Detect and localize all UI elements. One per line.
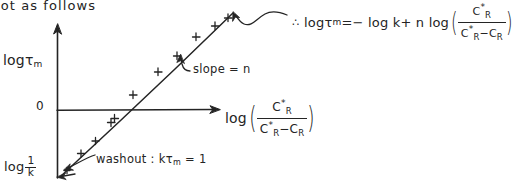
eq-tau-sub: m [332, 17, 341, 27]
eq-coefficient: n [416, 15, 424, 30]
washout-tau-sub: m [173, 158, 181, 167]
eq-plus: + [400, 15, 411, 30]
x-axis-ratio-numerator: C*R [257, 98, 307, 118]
washout-equals-one: = 1 [185, 152, 207, 166]
close-paren: ) [307, 106, 314, 129]
therefore-symbol: ∴ [292, 16, 300, 29]
eq-log: log [304, 15, 324, 30]
y-intercept-label: log1k [4, 156, 37, 179]
eq-minus-logk: − log k [353, 15, 401, 30]
eq-den-C2-sub: R [497, 32, 503, 42]
eq-den-C2: C [489, 27, 497, 40]
intercept-arrow [57, 173, 75, 179]
den-C2: C [290, 122, 299, 136]
den-C2-sub: R [298, 128, 304, 138]
y-axis [54, 24, 62, 178]
num-sub: R [286, 106, 292, 116]
eq-ratio-denominator: C*R−CR [458, 22, 506, 43]
intercept-log: log [4, 159, 24, 174]
den-minus: − [279, 122, 289, 136]
eq-tau: τ [324, 15, 332, 30]
washout-tau: τ [166, 152, 173, 166]
intercept-fraction: 1k [25, 156, 36, 179]
eq-rhs-log: log [429, 15, 449, 30]
y-axis-label-tau: τ [25, 52, 34, 68]
figure-caption: lot as follows [0, 0, 96, 13]
y-axis-label-log: log [3, 52, 25, 68]
eq-den-minus: − [480, 27, 489, 40]
x-axis-ratio-denominator: C*R−CR [257, 118, 307, 139]
eq-num-sub: R [485, 10, 491, 20]
eq-close-paren: ) [506, 11, 513, 32]
equation-leader [233, 12, 287, 25]
eq-equals: = [341, 15, 352, 30]
x-axis-label: log(C*RC*R−CR) [225, 98, 317, 138]
eq-den-C: C [461, 27, 469, 40]
y-axis-label: logτm [3, 52, 43, 69]
washout-label: washout : [96, 152, 155, 166]
y-axis-label-sub: m [34, 59, 43, 69]
x-axis-label-log: log [225, 110, 247, 126]
eq-ratio: C*RC*R−CR [458, 2, 506, 42]
result-equation: ∴logτm=− log k+ n log(C*RC*R−CR) [292, 2, 515, 42]
washout-annotation: washout : kτm = 1 [96, 152, 207, 167]
slope-annotation: slope = n [193, 62, 251, 76]
washout-k: k [159, 152, 166, 166]
open-paren: ( [249, 106, 256, 129]
intercept-denominator: k [25, 167, 36, 179]
num-C: C [272, 100, 281, 114]
eq-ratio-numerator: C*R [458, 2, 506, 22]
origin-label: 0 [36, 99, 44, 113]
x-axis [57, 106, 220, 114]
washout-leader [64, 155, 95, 170]
eq-open-paren: ( [451, 11, 458, 32]
x-axis-ratio: C*RC*R−CR [257, 98, 307, 138]
